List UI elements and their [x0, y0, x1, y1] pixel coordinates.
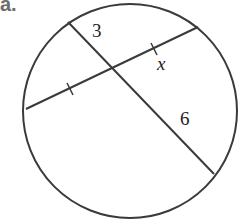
variable-label-x: x [156, 53, 166, 74]
segment-label-6: 6 [180, 108, 190, 129]
circle [23, 4, 237, 218]
chord-2 [68, 22, 214, 174]
segment-label-3: 3 [92, 20, 102, 41]
circle-diagram: 3 x 6 [0, 0, 238, 222]
